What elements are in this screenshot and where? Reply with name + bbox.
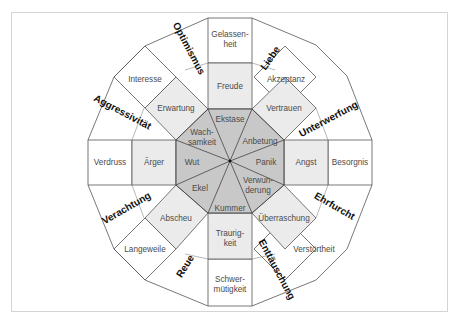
label-wut: Wut [185,158,200,167]
label-freude: Freude [217,82,243,91]
label-verstoertheit: Verstörtheit [293,245,335,254]
label-verwunderung-1: Verwun- [243,176,273,185]
label-traurigkeit-2: keit [224,239,237,248]
label-schwermuetigkeit-2: mütigkeit [214,285,247,294]
label-besorgnis: Besorgnis [332,158,368,167]
label-interesse: Interesse [128,75,162,84]
emotion-wheel: Ekstase Anbetung Panik Verwun- derung Ku… [0,0,459,322]
label-panik: Panik [256,158,277,167]
dyad-ehrfurcht: Ehrfurcht [313,190,358,222]
label-verwunderung-2: derung [245,186,271,195]
label-gelassenheit-1: Gelassen- [211,30,249,39]
dyad-reue: Reue [174,252,197,279]
label-akzeptanz: Akzeptanz [267,75,305,84]
label-angst: Angst [296,158,318,167]
label-langeweile: Langeweile [124,245,166,254]
label-ekel: Ekel [192,184,208,193]
label-ekstase: Ekstase [215,115,245,124]
label-verdruss: Verdruss [94,158,126,167]
label-ueberraschung: Überraschung [258,213,310,223]
label-kummer: Kummer [215,204,246,213]
label-abscheu: Abscheu [160,214,192,223]
label-erwartung: Erwartung [157,104,195,113]
label-wachsamkeit-1: Wach- [190,128,214,137]
label-anbetung: Anbetung [242,137,278,146]
label-gelassenheit-2: heit [223,40,237,49]
label-aerger: Ärger [144,157,164,167]
label-wachsamkeit-2: samkeit [188,138,217,147]
label-vertrauen: Vertrauen [266,104,302,113]
dyad-optimismus: Optimismus [171,20,208,77]
label-traurigkeit-1: Traurig- [216,229,245,238]
label-schwermuetigkeit-1: Schwer- [215,275,245,284]
